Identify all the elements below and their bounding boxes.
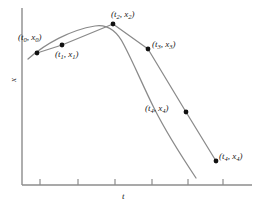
data-point-marker [146, 47, 151, 52]
x-axis-label: t [122, 192, 125, 201]
data-point-marker [184, 110, 189, 115]
data-point-marker [60, 43, 65, 48]
point-label-3: (t3, x3) [152, 40, 176, 49]
point-label-5: (t4, x4) [219, 152, 243, 161]
point-label-0: (t0, x0) [18, 33, 42, 42]
interpolation-figure: (t0, x0) (t1, x1) (t2, x2) (t3, x3) (t4,… [0, 0, 263, 210]
data-point-marker [214, 159, 219, 164]
data-point-marker [35, 51, 40, 56]
x-axis-ticks [40, 179, 223, 185]
data-point-markers [35, 22, 219, 164]
point-label-4: (t4, x4) [145, 104, 169, 113]
point-label-1: (t1, x1) [55, 50, 79, 59]
point-label-2: (t2, x2) [111, 10, 135, 19]
data-point-marker [111, 22, 116, 27]
y-axis-label: x [9, 78, 18, 82]
